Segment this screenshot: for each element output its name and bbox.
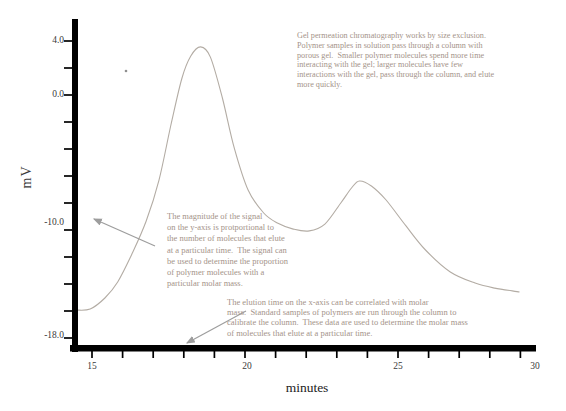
- y-tick-label-neg10: -10.0: [24, 217, 64, 228]
- x-axis: [70, 345, 536, 352]
- x-axis-ticks: [92, 351, 520, 358]
- chromatogram-figure: 4.0 0.0 -10.0 -18.0 15 20 25 30 mV minut…: [0, 0, 566, 411]
- x-tick-label-25: 25: [378, 361, 418, 372]
- annotation-size-exclusion: Gel permeation chromatography works by s…: [297, 31, 547, 90]
- y-axis: [72, 19, 78, 352]
- y-axis-ticks: [64, 41, 73, 338]
- annotation-x-axis-meaning: The elution time on the x-axis can be co…: [227, 297, 552, 338]
- x-tick-label-30: 30: [515, 361, 555, 372]
- x-axis-title: minutes: [267, 380, 347, 396]
- y-tick-label-0: 0.0: [24, 89, 64, 100]
- y-tick-label-4: 4.0: [24, 35, 64, 46]
- x-tick-label-15: 15: [72, 361, 112, 372]
- x-tick-label-20: 20: [227, 361, 267, 372]
- speck-artifact: [125, 70, 128, 73]
- y-tick-label-neg18: -18.0: [24, 330, 64, 341]
- annotation-y-axis-meaning: The magnitude of the signal on the y-axi…: [167, 211, 347, 289]
- y-axis-title: mV: [13, 161, 41, 193]
